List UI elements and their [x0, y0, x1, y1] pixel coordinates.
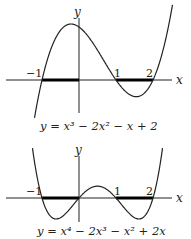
equation-label: y = x³ − 2x² − x + 2 — [39, 119, 158, 133]
tick-1: 1 — [114, 67, 121, 80]
cubic-curve — [35, 5, 173, 118]
polynomial-graphs-diagram: y x −1 1 2 y = x³ − 2x² − x + 2 y x −1 1… — [0, 0, 191, 239]
y-axis-label: y — [73, 5, 81, 19]
tick-2: 2 — [146, 67, 153, 80]
equation-label: y = x⁴ − 2x³ − x² + 2x — [36, 224, 166, 238]
quartic-graph: y x −1 1 2 y = x⁴ − 2x³ − x² + 2x — [6, 143, 183, 238]
tick-neg1: −1 — [26, 67, 42, 80]
tick-2: 2 — [146, 185, 153, 198]
tick-1: 1 — [114, 185, 121, 198]
x-axis-label: x — [176, 73, 183, 87]
cubic-graph: y x −1 1 2 y = x³ − 2x² − x + 2 — [6, 5, 183, 133]
y-axis-label: y — [74, 143, 82, 157]
tick-neg1: −1 — [26, 185, 42, 198]
quartic-curve — [33, 148, 163, 219]
x-axis-label: x — [176, 191, 183, 205]
